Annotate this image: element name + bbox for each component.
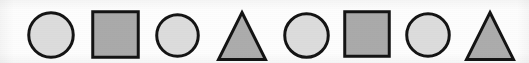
triangle-icon <box>217 11 267 61</box>
circle-icon <box>283 12 330 59</box>
square-icon <box>91 10 140 59</box>
circle-icon <box>155 13 200 58</box>
triangle-glyph <box>219 13 266 60</box>
circle-icon <box>405 12 451 58</box>
square-glyph <box>93 12 139 58</box>
triangle-icon <box>465 11 515 61</box>
shape-sequence-figure <box>0 0 529 63</box>
circle-glyph <box>157 15 199 57</box>
circle-glyph <box>29 13 74 58</box>
square-icon <box>343 10 391 58</box>
triangle-glyph <box>467 13 514 60</box>
square-glyph <box>345 12 390 57</box>
circle-glyph <box>407 14 450 57</box>
circle-icon <box>27 11 75 59</box>
circle-glyph <box>285 14 329 58</box>
